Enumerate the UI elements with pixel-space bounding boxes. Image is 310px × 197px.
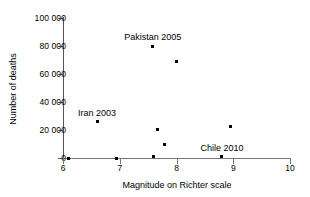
data-point [152,155,155,158]
point-annotation: Chile 2010 [200,144,243,153]
x-tick-label: 9 [223,164,243,173]
data-point [115,157,118,160]
y-tick-label: 40 000 [39,98,66,107]
x-tick-label: 10 [280,164,300,173]
y-axis-title: Number of deaths [8,24,18,154]
y-tick-label: 80 000 [39,42,66,51]
x-tick-label: 7 [110,164,130,173]
x-tick-label: 8 [167,164,187,173]
data-point [163,143,166,146]
data-point [96,120,99,123]
y-tick-label: 100 000 [35,14,66,23]
x-axis-title: Magnitude on Richter scale [63,180,291,190]
y-tick-label: 20 000 [39,126,66,135]
y-tick-label: 60 000 [39,70,66,79]
point-annotation: Iran 2003 [78,109,116,118]
data-point [229,125,232,128]
data-point [220,155,223,158]
x-tick-label: 6 [53,164,73,173]
data-point [151,45,154,48]
data-point [156,128,159,131]
point-annotation: Pakistan 2005 [124,33,181,42]
scatter-chart: 020 00040 00060 00080 000100 000 678910 … [0,0,310,197]
data-point [175,60,178,63]
data-point [67,157,70,160]
y-axis-line [63,17,64,159]
